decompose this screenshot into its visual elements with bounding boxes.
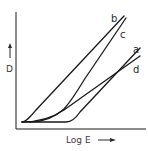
curve-label-a: a: [133, 44, 139, 55]
characteristic-curve-diagram: D Log E b c a d: [0, 0, 148, 151]
y-axis-label: D: [6, 64, 13, 74]
up-arrow-icon: [8, 43, 12, 58]
x-axis-label: Log E: [66, 135, 91, 145]
curve-d: [22, 56, 140, 122]
curve-label-c: c: [120, 29, 126, 40]
curve-label-b: b: [111, 13, 117, 24]
curve-b: [22, 16, 124, 122]
curve-c: [30, 18, 126, 122]
curve-label-d: d: [133, 64, 139, 75]
right-arrow-icon: [98, 138, 116, 142]
